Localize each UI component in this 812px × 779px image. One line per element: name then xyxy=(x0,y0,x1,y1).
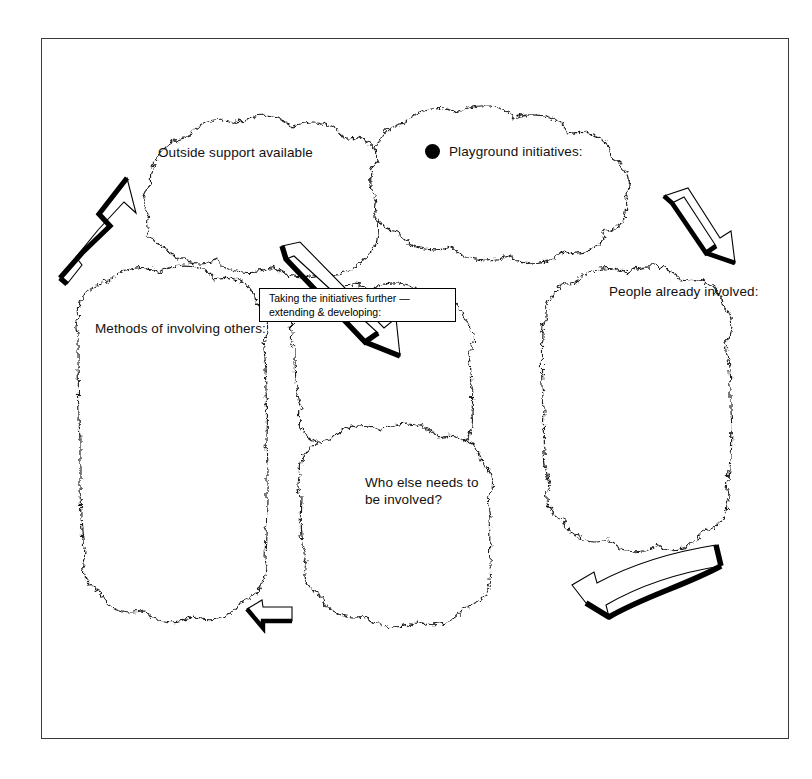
cloud-methods-of-involving-others[interactable] xyxy=(75,264,267,621)
cloud-who-else-needs-to-be-involved[interactable] xyxy=(297,422,491,626)
cloud-label-playground-initiatives: Playground initiatives: xyxy=(449,143,583,160)
cloud-label-who-else-needs-to-be-involved: Who else needs to be involved? xyxy=(365,474,479,508)
diagram-canvas xyxy=(0,0,812,779)
cloud-label-methods-of-involving-others: Methods of involving others: xyxy=(95,320,266,337)
arrow-bottom-curved[interactable] xyxy=(572,545,721,617)
arrow-up-left[interactable] xyxy=(60,178,136,284)
center-title-text: Taking the initiatives further — extendi… xyxy=(269,292,410,319)
cloud-people-already-involved[interactable] xyxy=(539,265,729,550)
cloud-playground-initiatives[interactable] xyxy=(369,104,628,262)
playground-bullet-icon xyxy=(425,144,440,159)
cloud-label-people-already-involved: People already involved: xyxy=(609,283,759,300)
cloud-outside-support[interactable] xyxy=(142,114,378,275)
diagram-page: Outside support available Playground ini… xyxy=(0,0,812,779)
center-title-box[interactable]: Taking the initiatives further — extendi… xyxy=(259,288,456,322)
cloud-label-outside-support: Outside support available xyxy=(158,144,313,161)
arrow-bottom-small[interactable] xyxy=(247,600,292,628)
arrow-down-right-top[interactable] xyxy=(664,188,735,263)
